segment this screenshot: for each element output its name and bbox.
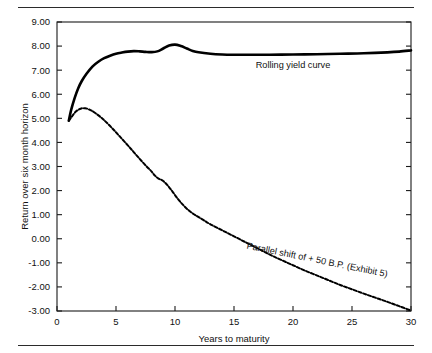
y-axis-tick-label: 3.00 (32, 161, 51, 172)
x-axis-tick-label: 30 (406, 316, 417, 327)
y-axis-tick-label: 5.00 (32, 113, 51, 124)
y-axis-tick-label: -3.00 (28, 305, 50, 316)
line-chart: 9.008.007.006.005.004.003.002.001.000.00… (0, 0, 432, 353)
chart-plot-area: 9.008.007.006.005.004.003.002.001.000.00… (0, 0, 432, 353)
x-axis-tick-label: 5 (113, 316, 118, 327)
y-axis-tick-label: 4.00 (32, 137, 51, 148)
y-axis-tick-label: -2.00 (28, 281, 50, 292)
series-line-rolling-yield-curve (69, 45, 411, 121)
y-axis-tick-label: 1.00 (32, 209, 51, 220)
y-axis-tick-label: 8.00 (32, 40, 51, 51)
y-axis-tick-label: -1.00 (28, 257, 50, 268)
x-axis-tick-label: 15 (229, 316, 240, 327)
series-annotation-rolling-yield-curve: Rolling yield curve (256, 60, 331, 70)
y-axis-title: Return over six month horizon (19, 103, 30, 230)
y-axis-tick-label: 7.00 (32, 65, 51, 76)
series-line-parallel-shift (69, 108, 411, 310)
x-axis-tick-label: 0 (54, 316, 59, 327)
x-axis-tick-label: 20 (288, 316, 299, 327)
y-axis-tick-label: 2.00 (32, 185, 51, 196)
y-axis-tick-label: 6.00 (32, 89, 51, 100)
series-annotation-parallel-shift: Parallel shift of + 50 B.P. (Exhibit 5) (246, 241, 389, 279)
x-axis-tick-label: 25 (347, 316, 358, 327)
y-axis-tick-label: 0.00 (32, 233, 51, 244)
x-axis-title: Years to maturity (199, 333, 270, 344)
y-axis-tick-label: 9.00 (32, 16, 51, 27)
figure-container: 9.008.007.006.005.004.003.002.001.000.00… (0, 0, 432, 353)
x-axis-tick-label: 10 (170, 316, 181, 327)
